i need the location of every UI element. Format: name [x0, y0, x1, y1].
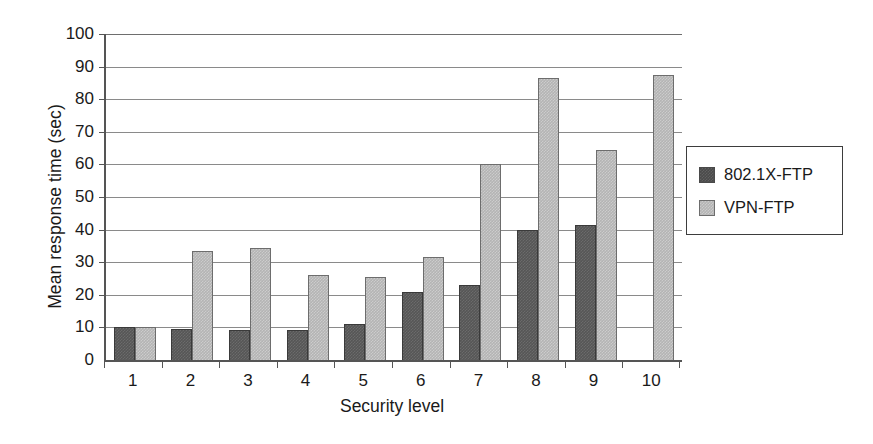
bar-group: [509, 34, 567, 360]
x-tick-label: 4: [277, 371, 335, 391]
x-tick-mark: [622, 362, 623, 368]
x-axis-tick-labels: 12345678910: [104, 362, 680, 398]
bar: [459, 285, 480, 360]
bar: [538, 78, 559, 360]
bar: [135, 327, 156, 360]
x-tick-mark: [277, 362, 278, 368]
bar: [517, 230, 538, 360]
bar: [596, 150, 617, 360]
bar-group: [336, 34, 394, 360]
bar: [171, 329, 192, 360]
x-tick-group: 8: [507, 362, 565, 398]
y-tick-mark: [99, 197, 106, 198]
x-tick-group: 6: [392, 362, 450, 398]
bar-groups: [106, 34, 682, 360]
bar-group: [279, 34, 337, 360]
bar-group: [452, 34, 510, 360]
bar-group: [221, 34, 279, 360]
x-tick-group: 7: [450, 362, 508, 398]
plot-area: [104, 34, 682, 362]
bar-group: [624, 34, 682, 360]
y-tick-mark: [99, 132, 106, 133]
y-tick-label: 60: [50, 155, 94, 172]
x-tick-label: 10: [622, 371, 680, 391]
x-tick-group: 4: [277, 362, 335, 398]
x-tick-mark: [392, 362, 393, 368]
y-tick-mark: [99, 295, 106, 296]
x-tick-label: 2: [162, 371, 220, 391]
bar: [480, 164, 501, 360]
legend-label: VPN-FTP: [724, 198, 795, 217]
y-tick-mark: [99, 262, 106, 263]
legend-entry: VPN-FTP: [699, 191, 842, 224]
bar-chart-figure: Mean response time (sec) 010203040506070…: [0, 0, 873, 444]
x-tick-group: 10: [622, 362, 680, 398]
x-tick-mark: [565, 362, 566, 368]
y-tick-mark: [99, 230, 106, 231]
bar-group: [106, 34, 164, 360]
x-tick-label: 6: [392, 371, 450, 391]
bar: [344, 324, 365, 360]
bar-group: [164, 34, 222, 360]
y-tick-mark: [99, 327, 106, 328]
x-tick-group: 9: [565, 362, 623, 398]
bar: [192, 251, 213, 360]
bar-group: [394, 34, 452, 360]
x-tick-label: 5: [334, 371, 392, 391]
y-tick-label: 10: [50, 318, 94, 335]
legend-label: 802.1X-FTP: [724, 165, 813, 184]
bar: [308, 275, 329, 360]
bar: [287, 330, 308, 360]
bar: [229, 330, 250, 360]
bar-group: [567, 34, 625, 360]
x-tick-group: 1: [104, 362, 162, 398]
y-tick-label: 100: [50, 25, 94, 42]
x-tick-label: 7: [450, 371, 508, 391]
y-tick-label: 40: [50, 221, 94, 238]
x-tick-group: 2: [162, 362, 220, 398]
y-tick-label: 30: [50, 253, 94, 270]
bar: [365, 277, 386, 360]
y-tick-mark: [99, 67, 106, 68]
y-tick-label: 90: [50, 58, 94, 75]
bar: [114, 327, 135, 360]
x-tick-mark: [162, 362, 163, 368]
y-tick-label: 70: [50, 123, 94, 140]
y-tick-mark: [99, 99, 106, 100]
y-tick-label: 0: [50, 351, 94, 368]
bar: [402, 292, 423, 360]
x-axis-title: Security level: [104, 396, 680, 417]
x-tick-mark: [507, 362, 508, 368]
bar: [653, 75, 674, 360]
x-tick-mark: [104, 362, 105, 368]
x-tick-mark: [679, 362, 680, 368]
legend-entry: 802.1X-FTP: [699, 158, 842, 191]
x-tick-group: 3: [219, 362, 277, 398]
chart-legend: 802.1X-FTPVPN-FTP: [686, 146, 843, 235]
x-tick-label: 3: [219, 371, 277, 391]
y-axis-tick-labels: 0102030405060708090100: [50, 26, 94, 370]
x-tick-group: 5: [334, 362, 392, 398]
bar: [423, 257, 444, 360]
x-tick-label: 1: [104, 371, 162, 391]
y-tick-label: 20: [50, 286, 94, 303]
bar: [575, 225, 596, 360]
y-tick-label: 80: [50, 90, 94, 107]
y-tick-mark: [99, 34, 106, 35]
x-tick-label: 8: [507, 371, 565, 391]
y-tick-mark: [99, 164, 106, 165]
x-tick-mark: [219, 362, 220, 368]
x-tick-label: 9: [565, 371, 623, 391]
legend-swatch-icon: [699, 167, 715, 183]
bar: [250, 248, 271, 360]
y-tick-label: 50: [50, 188, 94, 205]
legend-swatch-icon: [699, 200, 715, 216]
x-tick-mark: [334, 362, 335, 368]
x-tick-mark: [450, 362, 451, 368]
